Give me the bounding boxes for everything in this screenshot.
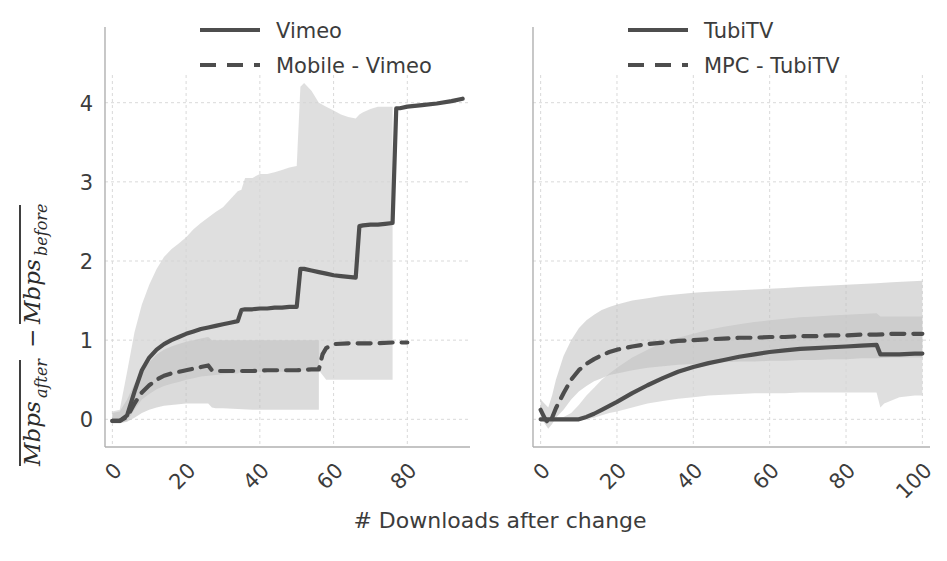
x-tick-text: 40: [672, 458, 708, 494]
ylabel-term2-base: Mbps: [19, 259, 45, 325]
x-tick-label: 0: [100, 458, 126, 484]
x-tick-text: 40: [238, 458, 274, 494]
x-tick-text: 80: [824, 458, 860, 494]
right-panel-bands: [541, 281, 923, 429]
ylabel-term1-sub: after: [32, 358, 51, 398]
y-tick-text: 4: [80, 92, 93, 116]
right-panel: 020406080100 TubiTVMPC - TubiTV: [528, 19, 936, 504]
x-tick-text: 20: [595, 458, 631, 494]
chart-svg: 020406080 01234 VimeoMobile - Vimeo 0204…: [0, 0, 947, 561]
figure-container: 020406080 01234 VimeoMobile - Vimeo 0204…: [0, 0, 947, 561]
x-tick-text: 60: [748, 458, 784, 494]
x-tick-label: 20: [595, 458, 631, 494]
x-tick-label: 40: [672, 458, 708, 494]
x-tick-label: 60: [748, 458, 784, 494]
y-tick-text: 3: [80, 171, 93, 195]
legend-label: MPC - TubiTV: [704, 54, 840, 78]
x-tick-label: 80: [386, 458, 422, 494]
y-tick-text: 2: [80, 250, 93, 274]
x-tick-label: 80: [824, 458, 860, 494]
x-tick-label: 20: [165, 458, 201, 494]
right-panel-legend: TubiTVMPC - TubiTV: [628, 19, 840, 78]
x-tick-text: 20: [165, 458, 201, 494]
y-axis-label: Mbps after − Mbps before: [19, 204, 51, 467]
x-tick-text: 0: [528, 458, 554, 484]
legend-label: Mobile - Vimeo: [276, 54, 432, 78]
x-tick-label: 40: [238, 458, 274, 494]
x-tick-text: 80: [386, 458, 422, 494]
left-panel-yticks: 01234: [80, 92, 93, 433]
x-tick-label: 100: [891, 458, 936, 503]
x-tick-label: 60: [312, 458, 348, 494]
x-tick-text: 0: [100, 458, 126, 484]
legend-label: Vimeo: [276, 19, 342, 43]
left-panel-xticks: 020406080: [100, 458, 421, 494]
x-tick-label: 0: [528, 458, 554, 484]
ylabel-term1-base: Mbps: [19, 401, 45, 467]
x-tick-text: 60: [312, 458, 348, 494]
left-panel-legend: VimeoMobile - Vimeo: [200, 19, 432, 78]
right-panel-xticks: 020406080100: [528, 458, 936, 503]
ylabel-operator: −: [19, 329, 45, 348]
left-panel: 020406080 01234 VimeoMobile - Vimeo: [80, 19, 470, 494]
legend-label: TubiTV: [703, 19, 774, 43]
ylabel-term2-sub: before: [32, 204, 51, 256]
x-tick-text: 100: [891, 458, 936, 503]
y-tick-text: 0: [80, 408, 93, 432]
x-axis-title: # Downloads after change: [353, 508, 646, 533]
y-tick-text: 1: [80, 329, 93, 353]
